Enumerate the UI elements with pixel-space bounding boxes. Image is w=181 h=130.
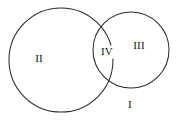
region-iii-label: III — [133, 39, 145, 51]
venn-diagram-figure: II III IV I — [0, 0, 181, 130]
region-i-label: I — [128, 98, 132, 110]
venn-diagram-canvas: II III IV I — [0, 0, 181, 130]
region-ii-label: II — [35, 52, 43, 64]
region-iv-label: IV — [101, 45, 113, 57]
